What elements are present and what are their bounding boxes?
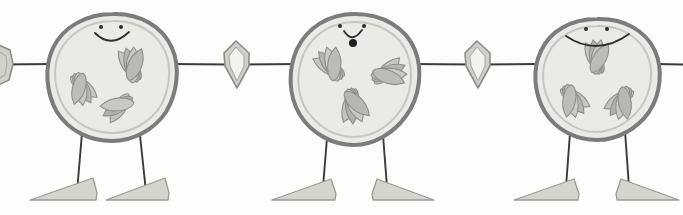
arm-line-clasp-to-2 <box>243 64 298 65</box>
arm-line-clasp-to-3 <box>484 64 539 65</box>
eye-right <box>362 24 366 28</box>
eye-left <box>338 24 342 28</box>
mouth-open-dot <box>349 39 357 47</box>
arm-line-2-to-clasp <box>414 64 470 65</box>
body-right-character <box>535 19 659 140</box>
arm-line-1-to-clasp <box>172 64 229 65</box>
eye-right <box>605 27 609 31</box>
eye-left <box>99 25 103 29</box>
eye-right <box>119 25 123 29</box>
body-outline-right <box>535 19 659 140</box>
illustration-canvas: Hand-drawn border illustration of three … <box>0 0 683 215</box>
cucumber-characters-illustration <box>0 0 683 215</box>
eye-left <box>584 27 588 31</box>
